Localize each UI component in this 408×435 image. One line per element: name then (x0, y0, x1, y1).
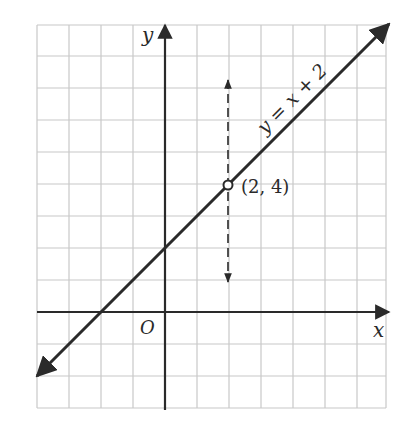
point-label: (2, 4) (241, 176, 289, 197)
line-y-equals-x-plus-2 (37, 24, 389, 376)
x-axis-label: x (373, 318, 384, 342)
origin-label: O (140, 317, 155, 338)
coordinate-graph: y x O (2, 4) y = x + 2 (0, 0, 408, 435)
y-axis-label: y (141, 23, 154, 47)
equation-label: y = x + 2 (252, 59, 332, 139)
point-2-4 (224, 181, 233, 190)
grid (37, 25, 386, 408)
